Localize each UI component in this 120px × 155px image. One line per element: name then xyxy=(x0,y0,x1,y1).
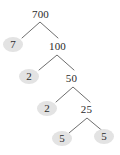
factor-tree-diagram: 700710025022555 xyxy=(0,0,120,155)
tree-node-50-composite: 50 xyxy=(62,71,81,85)
tree-node-7-prime: 7 xyxy=(3,37,23,52)
tree-node-700-composite: 700 xyxy=(28,7,53,21)
tree-node-2-prime: 2 xyxy=(37,101,57,116)
branch-n700 xyxy=(22,22,58,38)
tree-node-5-prime: 5 xyxy=(94,129,114,144)
tree-node-100-composite: 100 xyxy=(45,39,70,53)
tree-node-5-prime: 5 xyxy=(52,131,72,146)
branch-n100 xyxy=(39,55,74,70)
tree-node-25-composite: 25 xyxy=(77,102,96,116)
branch-n50 xyxy=(56,87,90,102)
tree-node-2-prime: 2 xyxy=(19,69,39,84)
